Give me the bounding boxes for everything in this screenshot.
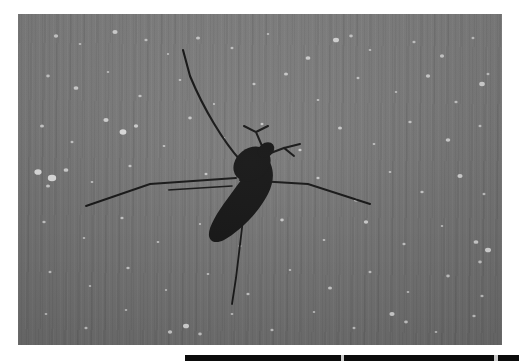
insect-photograph (18, 14, 502, 345)
bottom-black-bar (185, 355, 519, 361)
bottom-bar-segment (344, 355, 494, 361)
bottom-bar-segment (498, 355, 519, 361)
screenshot-canvas (0, 0, 519, 363)
bottom-bar-segment (185, 355, 341, 361)
photo-vignette (18, 14, 502, 345)
